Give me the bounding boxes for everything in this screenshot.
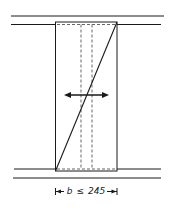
dimension-relation: ≤ (76, 186, 84, 196)
dimension-symbol: b (67, 186, 73, 196)
dimension-value: 245 (88, 186, 105, 196)
diagram-canvas (0, 0, 178, 209)
dimension-label: b ≤ 245 (55, 184, 117, 198)
diagonal-line (56, 22, 118, 171)
